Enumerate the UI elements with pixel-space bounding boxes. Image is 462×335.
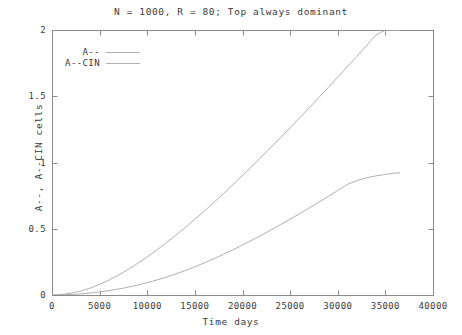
legend-label-2: A--CIN [10,58,100,68]
chart-title: N = 1000, R = 80; Top always dominant [0,6,462,17]
x-tick-label: 20000 [228,301,257,311]
x-tick-label: 40000 [418,301,447,311]
x-tick-label: 5000 [88,301,111,311]
legend-label-1: A-- [10,47,100,57]
x-tick-label: 10000 [133,301,162,311]
x-tick-label: 25000 [276,301,305,311]
y-tick-label: 0.5 [0,224,46,234]
series-group [52,30,400,295]
y-tick-label: 1.5 [0,91,46,101]
x-tick-label: 30000 [323,301,352,311]
plot-border [53,31,434,296]
x-axis-label: Time days [0,316,462,327]
y-tick-label: 1 [0,158,46,168]
chart-figure: N = 1000, R = 80; Top always dominant Ti… [0,0,462,335]
y-tick-label: 2 [0,25,46,35]
x-tick-label: 0 [49,301,55,311]
x-tick-label: 15000 [180,301,209,311]
x-tick-label: 35000 [371,301,400,311]
y-tick-label: 0 [0,290,46,300]
series-line-1 [52,30,400,295]
